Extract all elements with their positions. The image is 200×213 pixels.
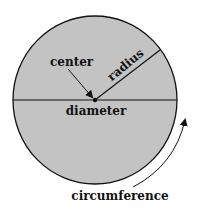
center-point — [93, 98, 97, 102]
circumference-label: circumference — [71, 189, 169, 203]
circle-diagram: center radius diameter circumference — [0, 0, 200, 213]
center-label: center — [50, 55, 94, 69]
diagram-svg: center radius diameter circumference — [0, 0, 200, 213]
diameter-label: diameter — [66, 104, 127, 118]
